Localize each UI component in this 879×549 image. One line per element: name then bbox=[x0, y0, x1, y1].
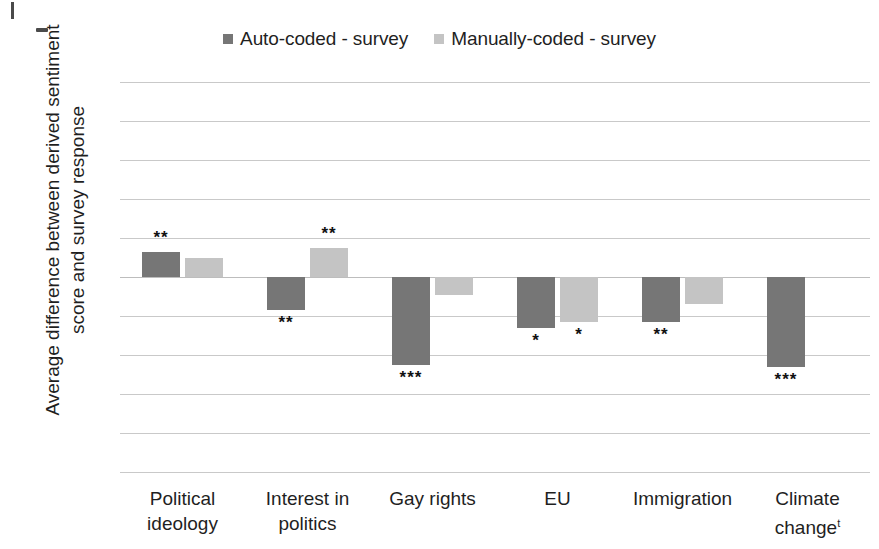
bar-auto-coded-3 bbox=[517, 277, 555, 328]
x-tick-label-4: Immigration bbox=[633, 486, 732, 511]
bar-auto-coded-1 bbox=[267, 277, 305, 310]
gridline--10 bbox=[120, 472, 870, 473]
gridline-0 bbox=[120, 277, 870, 278]
legend-swatch-icon-manually-coded bbox=[434, 34, 444, 44]
significance-marker-auto-3: * bbox=[532, 331, 540, 351]
gridline-4 bbox=[120, 199, 870, 200]
legend-item-manually-coded: Manually-coded - survey bbox=[434, 28, 656, 50]
gridline--8 bbox=[120, 433, 870, 434]
bar-auto-coded-0 bbox=[142, 252, 180, 277]
significance-marker-auto-0: ** bbox=[153, 228, 168, 248]
x-tick-label-0: Political ideology bbox=[147, 486, 218, 536]
legend-item-auto-coded: Auto-coded - survey bbox=[223, 28, 408, 50]
bar-auto-coded-2 bbox=[392, 277, 430, 365]
legend-label-manually-coded: Manually-coded - survey bbox=[451, 28, 656, 50]
significance-marker-manual-1: ** bbox=[321, 224, 336, 244]
gridline-10 bbox=[120, 82, 870, 83]
gridline-8 bbox=[120, 121, 870, 122]
gridline-6 bbox=[120, 160, 870, 161]
significance-marker-auto-4: ** bbox=[653, 325, 668, 345]
bar-manually-coded-3 bbox=[560, 277, 598, 322]
footnote-marker: t bbox=[837, 517, 840, 529]
y-axis-title: Average difference between derived senti… bbox=[40, 5, 90, 435]
bar-auto-coded-5 bbox=[767, 277, 805, 367]
significance-marker-auto-5: *** bbox=[775, 370, 798, 390]
gridline--4 bbox=[120, 355, 870, 356]
legend-swatch-icon-auto-coded bbox=[223, 34, 233, 44]
significance-marker-auto-2: *** bbox=[400, 368, 423, 388]
bar-auto-coded-4 bbox=[642, 277, 680, 322]
gridline--6 bbox=[120, 394, 870, 395]
x-tick-label-5: Climate changet bbox=[775, 486, 840, 540]
scan-artifact-mark bbox=[11, 2, 14, 19]
legend-label-auto-coded: Auto-coded - survey bbox=[240, 28, 408, 50]
x-tick-label-1: Interest in politics bbox=[266, 486, 349, 536]
bar-manually-coded-0 bbox=[185, 258, 223, 278]
significance-marker-manual-3: * bbox=[575, 325, 583, 345]
bar-manually-coded-1 bbox=[310, 248, 348, 277]
bar-manually-coded-2 bbox=[435, 277, 473, 295]
x-tick-label-3: EU bbox=[544, 486, 570, 511]
gridline--2 bbox=[120, 316, 870, 317]
gridline-2 bbox=[120, 238, 870, 239]
x-tick-label-2: Gay rights bbox=[389, 486, 476, 511]
significance-marker-auto-1: ** bbox=[278, 313, 293, 333]
bar-manually-coded-4 bbox=[685, 277, 723, 304]
chart-figure: Auto-coded - survey Manually-coded - sur… bbox=[0, 0, 879, 549]
chart-legend: Auto-coded - survey Manually-coded - sur… bbox=[0, 28, 879, 50]
plot-area: 1086420-2-4-6-8-10 **************** bbox=[120, 82, 870, 472]
